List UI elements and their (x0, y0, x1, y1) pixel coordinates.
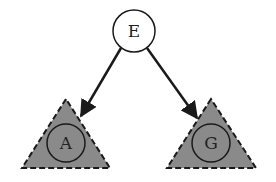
node-label-right: G (204, 133, 218, 153)
node-root: E (113, 10, 155, 52)
node-label-left: A (59, 133, 73, 153)
edge-e-to-g (147, 48, 197, 118)
edge-e-to-a (81, 48, 121, 116)
tree-svg: E A G (0, 0, 276, 182)
node-label-root: E (128, 21, 140, 41)
tree-diagram: E A G (0, 0, 276, 182)
